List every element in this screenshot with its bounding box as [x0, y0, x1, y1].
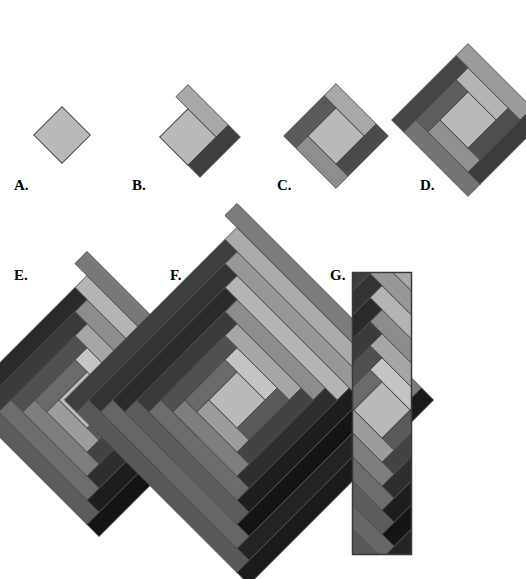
panel-g-graphic — [0, 0, 526, 579]
panel-g — [0, 0, 526, 579]
panel-label-g: G. — [330, 268, 345, 283]
panel-g-weave — [197, 213, 526, 579]
figure-root: A.B.C.D.E.F.G. — [0, 0, 526, 579]
panel-g-clip-group — [197, 213, 526, 579]
